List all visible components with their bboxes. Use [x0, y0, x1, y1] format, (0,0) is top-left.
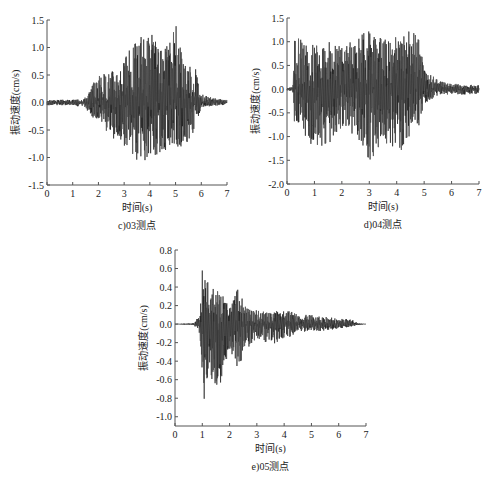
y-tick-label: -1.0: [268, 131, 284, 142]
x-tick-label: 3: [122, 188, 127, 199]
y-tick-label: -0.2: [156, 337, 172, 348]
y-tick-label: -0.5: [268, 107, 284, 118]
x-axis-title: 时间(s): [122, 201, 153, 214]
y-tick-label: 1.5: [272, 13, 285, 24]
y-tick-label: -1.0: [28, 152, 44, 163]
x-axis-title: 时间(s): [255, 442, 286, 455]
x-tick-label: 4: [394, 187, 399, 198]
x-tick-label: 5: [309, 429, 314, 440]
y-tick-label: 0.0: [160, 319, 173, 330]
y-tick-label: 0.0: [272, 84, 285, 95]
x-tick-label: 5: [422, 187, 427, 198]
figure-canvas: 1.51.00.50.0-0.5-1.0-1.501234567时间(s)振动速…: [0, 0, 488, 484]
y-tick-label: 0.4: [160, 282, 173, 293]
x-tick-label: 7: [225, 188, 230, 199]
y-tick-label: 1.0: [32, 42, 45, 53]
x-tick-label: 0: [173, 429, 178, 440]
y-tick-label: -0.8: [156, 393, 172, 404]
y-tick-label: -0.6: [156, 374, 172, 385]
y-tick-label: 0.5: [32, 70, 45, 81]
x-axis-title: 时间(s): [368, 200, 399, 213]
x-tick-label: 0: [45, 188, 50, 199]
y-tick-label: -2.0: [268, 179, 284, 190]
x-tick-label: 6: [336, 429, 341, 440]
y-tick-label: -0.5: [28, 125, 44, 136]
y-tick-label: -1.0: [156, 411, 172, 422]
x-tick-label: 2: [227, 429, 232, 440]
x-tick-label: 6: [199, 188, 204, 199]
y-tick-label: 1.0: [272, 36, 285, 47]
y-tick-label: -1.5: [268, 155, 284, 166]
chart-c-03: 1.51.00.50.0-0.5-1.0-1.501234567时间(s)振动速…: [9, 15, 230, 233]
y-tick-label: 0.6: [160, 263, 173, 274]
y-axis-title: 振动速度(cm/s): [137, 305, 150, 371]
y-tick-label: -1.5: [28, 180, 44, 191]
x-tick-label: 0: [285, 187, 290, 198]
x-tick-label: 6: [449, 187, 454, 198]
y-axis-title: 振动速度(cm/s): [249, 68, 262, 134]
x-tick-label: 1: [200, 429, 205, 440]
y-tick-label: 0.5: [272, 60, 285, 71]
y-tick-label: 0.2: [160, 300, 173, 311]
chart-e-05: 0.80.60.40.20.0-0.2-0.4-0.6-0.8-1.001234…: [137, 245, 369, 474]
x-tick-label: 1: [312, 187, 317, 198]
y-tick-label: -0.4: [156, 356, 172, 367]
x-tick-label: 3: [367, 187, 372, 198]
y-tick-label: 0.0: [32, 97, 45, 108]
chart-d-04: 1.51.00.50.0-0.5-1.0-1.5-2.001234567时间(s…: [249, 13, 482, 232]
y-tick-label: 1.5: [32, 15, 45, 26]
x-tick-label: 2: [339, 187, 344, 198]
x-tick-label: 5: [173, 188, 178, 199]
x-tick-label: 4: [147, 188, 152, 199]
chart-caption: d)04测点: [364, 218, 402, 231]
y-axis-title: 振动速度(cm/s): [9, 70, 22, 136]
x-tick-label: 2: [96, 188, 101, 199]
x-tick-label: 1: [70, 188, 75, 199]
x-tick-label: 7: [364, 429, 369, 440]
chart-caption: c)03测点: [118, 219, 156, 232]
x-tick-label: 7: [477, 187, 482, 198]
y-tick-label: 0.8: [160, 245, 173, 256]
x-tick-label: 4: [282, 429, 287, 440]
x-tick-label: 3: [254, 429, 259, 440]
chart-caption: e)05测点: [252, 460, 290, 473]
